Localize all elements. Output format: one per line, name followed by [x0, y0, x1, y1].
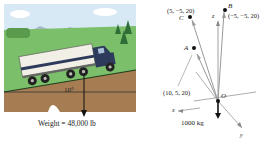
point-b-coords: (−5, −5, 20)	[228, 12, 259, 20]
point-c	[188, 15, 192, 19]
vector-cable-figure: (5, −5, 20) C B (−5, −5, 20) A (10, 5, 2…	[140, 0, 280, 142]
weight-label: Weight = 48,000 lb	[38, 119, 96, 128]
y-axis-label: y	[239, 132, 243, 138]
truck-incline-figure: 10° Weight = 48,000 lb	[0, 0, 140, 142]
weight-arrow-icon	[81, 110, 87, 117]
point-a	[192, 46, 196, 50]
x-axis-label: x	[171, 107, 175, 113]
x-axis-arrow-icon	[178, 109, 183, 113]
mass-label: 1000 kg	[181, 119, 204, 127]
z-axis-label: z	[211, 13, 215, 19]
mass-arrow-icon	[215, 113, 221, 119]
point-a-label: A	[183, 44, 189, 52]
point-o-label: O	[221, 92, 226, 100]
point-a-coords: (10, 5, 20)	[163, 89, 190, 97]
angle-label: 10°	[64, 86, 74, 94]
point-b	[223, 8, 227, 12]
truck-illustration: 10° Weight = 48,000 lb	[0, 0, 140, 142]
vector-diagram: (5, −5, 20) C B (−5, −5, 20) A (10, 5, 2…	[140, 0, 280, 142]
point-b-label: B	[228, 2, 233, 10]
point-c-label: C	[179, 14, 184, 22]
z-axis-arrow-icon	[216, 20, 220, 26]
